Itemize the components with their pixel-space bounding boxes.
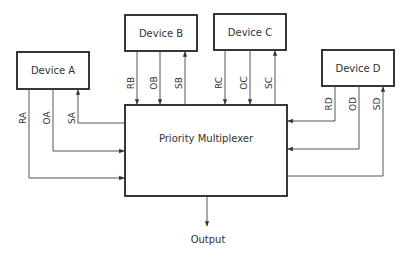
signal-rb-label: RB <box>126 77 136 89</box>
wire-oa <box>53 89 124 151</box>
device-b-label: Device B <box>139 28 183 39</box>
device-b-block: Device B <box>125 15 197 51</box>
device-c-block: Device C <box>214 14 286 50</box>
signal-rd-label: RD <box>324 97 334 110</box>
output-label: Output <box>191 234 226 245</box>
device-a-label: Device A <box>31 65 75 76</box>
device-c-label: Device C <box>228 27 272 38</box>
signal-ra-label: RA <box>18 111 28 124</box>
priority-multiplexer-label: Priority Multiplexer <box>159 133 254 144</box>
wire-ra <box>29 89 124 178</box>
signal-od-label: OD <box>348 97 358 111</box>
device-d-block: Device D <box>322 50 394 86</box>
signal-sa-label: SA <box>67 111 77 124</box>
device-a-block: Device A <box>17 52 89 89</box>
wire-sa <box>78 90 125 123</box>
device-d-label: Device D <box>335 63 380 74</box>
diagram-canvas: Device A Device B Device C Device D Prio… <box>0 0 408 257</box>
signal-oc-label: OC <box>239 76 249 89</box>
signal-sc-label: SC <box>264 77 274 89</box>
priority-multiplexer-block: Priority Multiplexer <box>125 105 287 196</box>
signal-sd-label: SD <box>372 98 382 111</box>
signal-oa-label: OA <box>42 111 52 125</box>
wire-od <box>288 86 359 149</box>
signal-ob-label: OB <box>149 76 159 89</box>
signal-rc-label: RC <box>214 77 224 89</box>
signal-sb-label: SB <box>174 77 184 89</box>
